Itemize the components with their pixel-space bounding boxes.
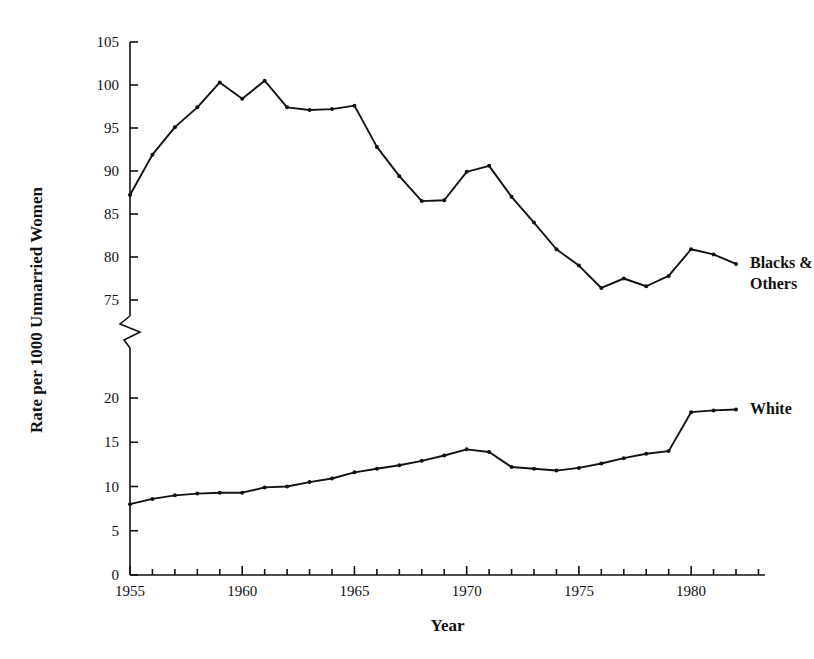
- data-point-marker: [308, 480, 312, 484]
- data-point-marker: [734, 262, 738, 266]
- x-tick-label-1955: 1955: [115, 583, 145, 599]
- data-point-marker: [285, 105, 289, 109]
- y-tick-label-90: 90: [104, 163, 119, 179]
- y-tick-label-15: 15: [104, 434, 119, 450]
- data-point-marker: [375, 145, 379, 149]
- series-label-white: White: [750, 400, 792, 417]
- data-point-marker: [510, 195, 514, 199]
- data-point-marker: [510, 465, 514, 469]
- data-point-marker: [554, 469, 558, 473]
- data-point-marker: [667, 449, 671, 453]
- data-point-marker: [308, 108, 312, 112]
- y-tick-label-20: 20: [104, 390, 119, 406]
- y-tick-label-5: 5: [112, 523, 120, 539]
- data-point-marker: [150, 497, 154, 501]
- data-point-marker: [667, 274, 671, 278]
- data-point-marker: [263, 79, 267, 83]
- y-tick-label-100: 100: [97, 77, 120, 93]
- x-tick-label-1975: 1975: [564, 583, 594, 599]
- data-point-marker: [622, 277, 626, 281]
- data-point-marker: [173, 125, 177, 129]
- data-point-marker: [622, 456, 626, 460]
- data-point-marker: [577, 264, 581, 268]
- series-label-blacks-others: Blacks &: [750, 254, 813, 271]
- data-point-marker: [330, 477, 334, 481]
- data-point-marker: [644, 452, 648, 456]
- data-point-marker: [532, 467, 536, 471]
- data-point-marker: [397, 463, 401, 467]
- data-point-marker: [150, 153, 154, 157]
- line-chart-svg: 7580859095100105051015201955196019651970…: [0, 0, 814, 659]
- data-point-marker: [240, 491, 244, 495]
- x-tick-label-1965: 1965: [339, 583, 369, 599]
- data-point-marker: [330, 107, 334, 111]
- data-point-marker: [487, 164, 491, 168]
- data-point-marker: [532, 221, 536, 225]
- data-point-marker: [734, 408, 738, 412]
- axis-break-symbol: [120, 316, 140, 348]
- data-point-marker: [218, 491, 222, 495]
- series-label-blacks-others: Others: [750, 275, 797, 292]
- data-point-marker: [420, 459, 424, 463]
- x-tick-label-1980: 1980: [676, 583, 706, 599]
- x-axis-title: Year: [431, 616, 465, 635]
- data-point-marker: [352, 470, 356, 474]
- data-point-marker: [442, 454, 446, 458]
- data-point-marker: [465, 447, 469, 451]
- data-point-marker: [442, 198, 446, 202]
- data-point-marker: [218, 80, 222, 84]
- data-point-marker: [577, 466, 581, 470]
- data-point-marker: [689, 247, 693, 251]
- data-point-marker: [128, 502, 132, 506]
- data-point-marker: [195, 492, 199, 496]
- chart-figure: 7580859095100105051015201955196019651970…: [0, 0, 814, 659]
- y-tick-label-80: 80: [104, 249, 119, 265]
- y-tick-label-0: 0: [112, 567, 120, 583]
- data-point-marker: [689, 410, 693, 414]
- data-point-marker: [352, 104, 356, 108]
- data-point-marker: [599, 461, 603, 465]
- data-point-marker: [128, 193, 132, 197]
- y-axis-title: Rate per 1000 Unmarried Women: [27, 187, 46, 433]
- x-tick-label-1960: 1960: [227, 583, 257, 599]
- data-point-marker: [420, 199, 424, 203]
- data-point-marker: [397, 174, 401, 178]
- data-point-marker: [712, 252, 716, 256]
- data-point-marker: [487, 450, 491, 454]
- data-point-marker: [285, 485, 289, 489]
- y-tick-label-10: 10: [104, 479, 119, 495]
- series-line-blacks-others: [130, 81, 736, 288]
- data-point-marker: [263, 485, 267, 489]
- y-tick-label-75: 75: [104, 292, 119, 308]
- data-point-marker: [173, 493, 177, 497]
- data-point-marker: [712, 408, 716, 412]
- x-tick-label-1970: 1970: [452, 583, 482, 599]
- data-point-marker: [644, 284, 648, 288]
- data-point-marker: [375, 467, 379, 471]
- y-tick-label-105: 105: [97, 34, 120, 50]
- series-line-white: [130, 410, 736, 505]
- y-tick-label-85: 85: [104, 206, 119, 222]
- data-point-marker: [240, 97, 244, 101]
- data-point-marker: [465, 170, 469, 174]
- data-point-marker: [195, 105, 199, 109]
- data-point-marker: [554, 247, 558, 251]
- data-point-marker: [599, 286, 603, 290]
- y-tick-label-95: 95: [104, 120, 119, 136]
